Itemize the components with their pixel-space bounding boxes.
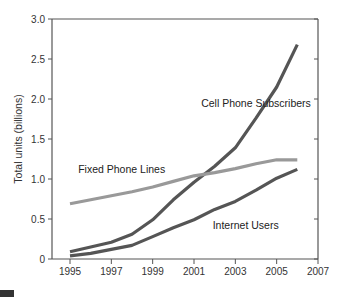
y-axis-label: Total units (billions) (12, 94, 24, 183)
y-tick-label: 0.5 (31, 214, 45, 225)
series-labels: Cell Phone SubscribersFixed Phone LinesI… (78, 97, 311, 231)
y-tick-label: 1.5 (31, 134, 45, 145)
x-tick-label: 1999 (142, 266, 165, 277)
x-tick-label: 1995 (59, 266, 82, 277)
label-internet-users: Internet Users (213, 219, 279, 231)
y-tick-label: 1.0 (31, 174, 45, 185)
x-tick-label: 2007 (307, 266, 330, 277)
x-axis-ticks: 1995199719992001200320052007 (59, 259, 330, 277)
y-tick-label: 2.0 (31, 94, 45, 105)
x-tick-label: 2001 (183, 266, 206, 277)
line-chart: 00.51.01.52.02.53.0 19951997199920012003… (0, 0, 341, 297)
corner-mark (0, 290, 14, 297)
y-tick-label: 2.5 (31, 54, 45, 65)
x-tick-label: 1997 (100, 266, 123, 277)
label-fixed-phone-lines: Fixed Phone Lines (78, 163, 165, 175)
x-tick-label: 2003 (224, 266, 247, 277)
y-tick-label: 3.0 (31, 14, 45, 25)
x-tick-label: 2005 (266, 266, 289, 277)
label-cell-phone-subscribers: Cell Phone Subscribers (201, 97, 311, 109)
y-tick-label: 0 (39, 254, 45, 265)
